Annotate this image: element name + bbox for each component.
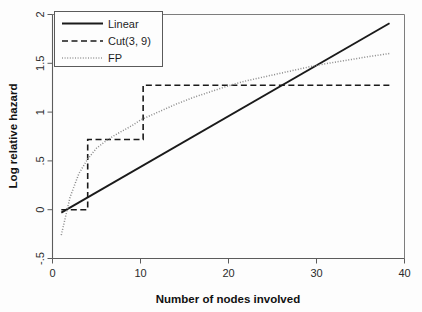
x-tick-label: 10 xyxy=(134,267,146,279)
y-tick-label: 1.5 xyxy=(34,56,46,71)
y-tick-label: 1 xyxy=(34,109,46,115)
x-tick-label: 40 xyxy=(398,267,410,279)
chart-legend: Linear Cut(3, 9) FP xyxy=(55,12,163,67)
y-tick-label: .5 xyxy=(34,156,46,165)
x-tick-label: 0 xyxy=(49,267,55,279)
legend-label-fp: FP xyxy=(108,52,122,64)
y-tick-label: -.5 xyxy=(34,252,46,265)
legend-label-linear: Linear xyxy=(108,18,139,30)
y-tick-label: 0 xyxy=(34,207,46,213)
y-tick-label: 2 xyxy=(34,11,46,17)
x-tick-label: 20 xyxy=(222,267,234,279)
x-tick-label: 30 xyxy=(310,267,322,279)
chart-figure: 010203040 -.50.511.52 Number of nodes in… xyxy=(0,0,422,312)
legend-label-cut: Cut(3, 9) xyxy=(108,35,151,47)
y-axis-title: Log relative hazard xyxy=(7,84,19,189)
chart-canvas: 010203040 -.50.511.52 Number of nodes in… xyxy=(0,0,422,312)
x-axis-title: Number of nodes involved xyxy=(156,293,300,305)
